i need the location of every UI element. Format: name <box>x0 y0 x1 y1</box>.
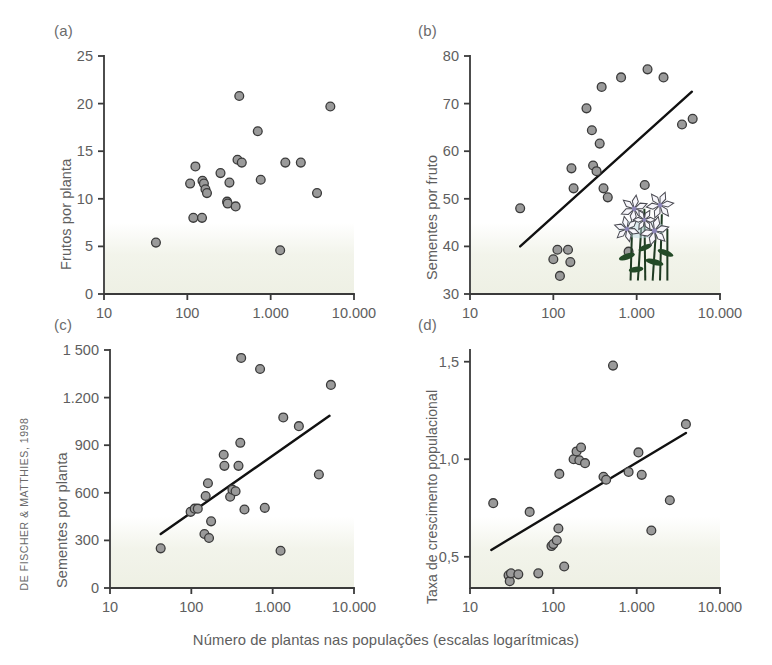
svg-text:50: 50 <box>443 191 459 207</box>
svg-text:300: 300 <box>75 532 99 548</box>
svg-text:1.000: 1.000 <box>619 599 655 615</box>
figure-scatter-panels: DE FISCHER & MATTHIES, 1998 (a) Frutos p… <box>0 0 772 665</box>
panel-a-plot: 0510152025101001.00010.000 <box>48 22 378 312</box>
svg-text:10.000: 10.000 <box>698 599 742 615</box>
panel-d-plot: 0,51,01,5101001.00010.000 <box>418 316 753 606</box>
panel-d: (d) Taxa de crescimento populacional 0,5… <box>418 316 753 606</box>
svg-text:600: 600 <box>75 485 99 501</box>
panel-c: (c) Sementes por planta 03006009001.2001… <box>48 316 378 606</box>
figure-caption: Número de plantas nas populações (escala… <box>0 632 772 648</box>
svg-text:70: 70 <box>443 96 459 112</box>
svg-text:10: 10 <box>77 191 93 207</box>
svg-text:25: 25 <box>77 48 93 64</box>
svg-text:30: 30 <box>443 286 459 302</box>
panel-b-plot: 304050607080101001.00010.000 <box>418 22 753 312</box>
svg-text:10.000: 10.000 <box>332 599 376 615</box>
svg-text:900: 900 <box>75 437 99 453</box>
panel-b: (b) Sementes por fruto 30405060708010100… <box>418 22 753 312</box>
svg-text:0: 0 <box>85 286 93 302</box>
svg-text:100: 100 <box>179 599 203 615</box>
svg-text:20: 20 <box>77 96 93 112</box>
svg-text:80: 80 <box>443 48 459 64</box>
svg-text:0: 0 <box>91 580 99 596</box>
source-credit: DE FISCHER & MATTHIES, 1998 <box>18 384 30 624</box>
svg-text:40: 40 <box>443 238 459 254</box>
svg-text:1,5: 1,5 <box>439 354 459 370</box>
svg-text:1.000: 1.000 <box>255 599 291 615</box>
svg-text:100: 100 <box>541 599 565 615</box>
svg-text:10: 10 <box>102 599 118 615</box>
panel-c-plot: 03006009001.2001 500101001.00010.000 <box>48 316 378 606</box>
svg-text:0,5: 0,5 <box>439 549 459 565</box>
svg-text:5: 5 <box>85 238 93 254</box>
svg-text:60: 60 <box>443 143 459 159</box>
svg-text:1.200: 1.200 <box>63 390 99 406</box>
svg-text:1 500: 1 500 <box>63 342 99 358</box>
svg-text:1,0: 1,0 <box>439 451 459 467</box>
panel-a: (a) Frutos por planta 0510152025101001.0… <box>48 22 378 312</box>
svg-text:10: 10 <box>462 599 478 615</box>
svg-text:15: 15 <box>77 143 93 159</box>
